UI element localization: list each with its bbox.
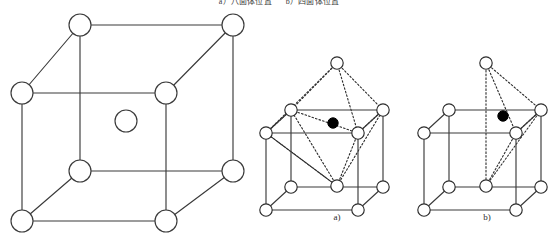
atom-front-top-left xyxy=(260,127,272,139)
atom-octahedral-interstitial xyxy=(328,118,338,128)
panel-bcc-unit-cell xyxy=(0,0,260,239)
atom-octa-apex-bottom xyxy=(331,180,343,192)
atom-front-top-left xyxy=(11,82,33,104)
octahedron-dotted-edges xyxy=(266,63,383,186)
panel-label-b: b) xyxy=(470,212,504,222)
atom-back-top-left xyxy=(285,104,297,116)
atom-back-top-right xyxy=(535,104,547,116)
atom-back-top-right xyxy=(377,104,389,116)
atom-back-bottom-left xyxy=(443,181,455,193)
atom-back-bottom-right xyxy=(377,181,389,193)
atom-front-top-right xyxy=(352,127,364,139)
atom-front-bottom-left xyxy=(418,204,430,216)
atom-tetrahedral-interstitial xyxy=(498,111,508,121)
atom-tetra-apex-top xyxy=(480,57,492,69)
atom-back-top-right xyxy=(222,14,244,36)
tetrahedral-lattice-atoms xyxy=(418,57,547,216)
atom-back-bottom-right xyxy=(535,181,547,193)
atom-tetra-apex-bottom xyxy=(480,180,492,192)
atom-front-bottom-left xyxy=(260,204,272,216)
atom-front-bottom-right xyxy=(155,210,177,232)
atom-body-center xyxy=(115,110,137,132)
atom-back-bottom-left xyxy=(285,181,297,193)
panel-label-a: a) xyxy=(320,212,354,222)
atom-back-top-left xyxy=(443,104,455,116)
panel-tetrahedral-site xyxy=(408,40,558,239)
octahedral-lattice-atoms xyxy=(260,57,389,216)
atom-front-top-right xyxy=(510,127,522,139)
atom-front-bottom-right xyxy=(510,204,522,216)
atom-front-top-left xyxy=(418,127,430,139)
tetrahedral-cube-edges xyxy=(424,110,541,210)
atom-front-bottom-left xyxy=(11,210,33,232)
atom-back-top-left xyxy=(69,14,91,36)
tetrahedron-dotted-edges xyxy=(486,63,541,186)
panel-octahedral-site xyxy=(250,40,400,239)
atom-back-bottom-left xyxy=(69,160,91,182)
atom-front-top-right xyxy=(155,82,177,104)
crystal-structure-figure: a）八面体位置b）四面体位置 xyxy=(0,0,558,239)
atom-back-bottom-right xyxy=(222,160,244,182)
atom-octa-apex-top xyxy=(331,57,343,69)
caption-part-b: b）四面体位置 xyxy=(286,0,339,6)
octahedral-cube-edges xyxy=(266,110,383,210)
